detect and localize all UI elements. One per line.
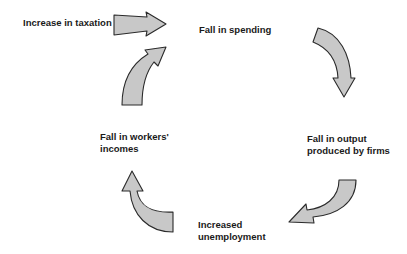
node-increased-unemployment-line1: Increased (198, 219, 266, 231)
curved-arrow-up-icon (122, 171, 173, 232)
node-fall-in-workers-incomes-line1: Fall in workers' (100, 131, 169, 143)
arrows-layer (0, 0, 407, 254)
node-fall-in-spending: Fall in spending (199, 24, 271, 36)
node-fall-in-workers-incomes-line2: incomes (100, 143, 169, 155)
curved-arrow-down-icon (313, 28, 355, 97)
taxation-cycle-diagram: Increase in taxation Fall in spending Fa… (0, 0, 407, 254)
node-fall-in-output-line1: Fall in output (307, 133, 390, 145)
node-fall-in-output-line2: produced by firms (307, 145, 390, 157)
curved-arrow-left-icon (289, 180, 356, 223)
node-fall-in-output: Fall in output produced by firms (307, 133, 390, 157)
node-fall-in-workers-incomes: Fall in workers' incomes (100, 131, 169, 155)
node-increased-unemployment: Increased unemployment (198, 219, 266, 243)
curved-arrow-right-icon (122, 47, 166, 105)
node-increased-unemployment-line2: unemployment (198, 231, 266, 243)
input-label-taxation: Increase in taxation (23, 17, 112, 29)
straight-arrow-right-icon (114, 12, 166, 36)
